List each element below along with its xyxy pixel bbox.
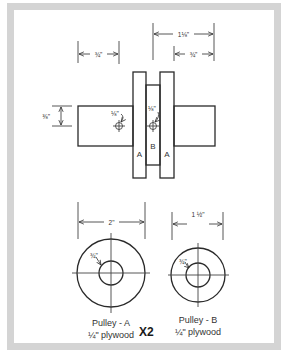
pulley-a-view: 2" ¾" Pulley - A ¼" plywood X2 [72, 202, 154, 340]
part-label-b: B [150, 142, 155, 151]
dim-overall-right-label: 1⅛" [178, 31, 190, 38]
dim-left-shaft-length: ¾" [78, 41, 119, 64]
dim-left-shaft-label: ¾" [95, 51, 103, 58]
pulley-a-material: ¼" plywood [88, 330, 134, 340]
pulley-a-diameter-label: 2" [109, 219, 116, 226]
pulley-b-view: 1 ½" ¾" Pulley - B ¼" plywood [168, 211, 229, 337]
dim-right-shaft-length: ¾" [174, 46, 213, 61]
pulley-a-hole-label: ¾" [90, 252, 98, 259]
pulley-disc-a-right [160, 72, 174, 178]
dim-overall-right: 1⅛" [153, 23, 214, 61]
dim-right-shaft-label: ¾" [190, 51, 198, 58]
pulley-b-hole-label: ¾" [179, 258, 187, 265]
pin-hole-center-label: ⅛" [148, 105, 156, 112]
dim-shaft-height-label: ⅜" [42, 113, 50, 120]
pulley-b-material: ¼" plywood [175, 327, 221, 337]
side-view: A B A ⅛" ⅛" ¾" [42, 23, 215, 178]
pin-hole-left-label: ⅛" [111, 110, 119, 117]
pulley-technical-drawing: A B A ⅛" ⅛" ¾" [0, 0, 288, 361]
pulley-b-diameter-label: 1 ½" [191, 211, 205, 218]
pulley-disc-a-left [133, 72, 146, 178]
dim-shaft-height: ⅜" [42, 106, 72, 126]
pin-hole-center: ⅛" [147, 105, 159, 132]
right-shaft [174, 106, 215, 146]
pulley-b-name: Pulley - B [179, 315, 218, 325]
part-label-a-right: A [164, 150, 170, 159]
pulley-a-name: Pulley - A [92, 318, 130, 328]
pin-hole-left: ⅛" [111, 110, 125, 132]
pulley-a-quantity: X2 [139, 325, 154, 339]
part-label-a-left: A [137, 150, 143, 159]
